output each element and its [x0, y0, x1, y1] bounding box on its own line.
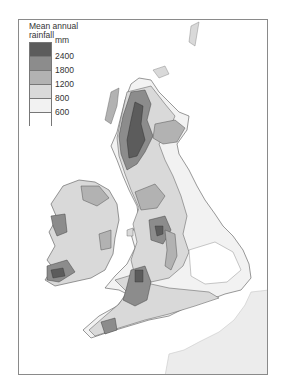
legend-swatch-medium	[29, 70, 52, 84]
legend-label-1200: 1200	[55, 80, 74, 89]
legend-unit: mm	[55, 36, 69, 45]
legend-swatch-very-high	[29, 42, 52, 56]
legend-swatch-very-low	[29, 98, 52, 112]
legend-swatch-high	[29, 56, 52, 70]
legend-label-2400: 2400	[55, 52, 74, 61]
map-legend: Mean annual rainfall mm 2400 1800 1200 8…	[29, 22, 99, 126]
shetland	[189, 22, 199, 46]
kerry-peak	[51, 268, 65, 278]
orkney	[153, 66, 169, 78]
legend-label-1800: 1800	[55, 66, 74, 75]
legend-swatch-lowest	[29, 112, 52, 126]
legend-scale: mm 2400 1800 1200 800 600	[29, 42, 99, 126]
snowdonia	[135, 270, 143, 282]
map-frame: Mean annual rainfall mm 2400 1800 1200 8…	[18, 19, 268, 375]
legend-swatch-low	[29, 84, 52, 98]
legend-label-600: 600	[55, 108, 69, 117]
legend-label-800: 800	[55, 94, 69, 103]
western-isles	[105, 88, 119, 124]
isle-of-man	[127, 228, 133, 236]
